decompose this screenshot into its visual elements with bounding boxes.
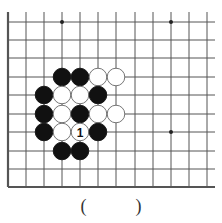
black-stone [71, 105, 89, 123]
white-stone [71, 86, 89, 104]
open-paren: ( [81, 196, 87, 217]
black-stone [89, 123, 107, 141]
white-stone [53, 123, 71, 141]
black-stone [35, 105, 53, 123]
white-stone [107, 105, 125, 123]
black-stone [71, 68, 89, 86]
star-point [60, 20, 64, 24]
white-stone [89, 105, 107, 123]
move-number-label: 1 [77, 126, 84, 140]
black-stone [35, 86, 53, 104]
white-stone [107, 68, 125, 86]
white-stone [53, 105, 71, 123]
close-paren: ) [136, 196, 142, 217]
black-stone [53, 68, 71, 86]
white-stone [53, 86, 71, 104]
answer-blank: ( ) [0, 196, 222, 217]
white-stone [89, 68, 107, 86]
star-point [169, 20, 173, 24]
black-stone [71, 142, 89, 160]
black-stone [89, 86, 107, 104]
star-point [169, 130, 173, 134]
black-stone [35, 123, 53, 141]
go-board: 1 [0, 0, 222, 195]
black-stone [53, 142, 71, 160]
